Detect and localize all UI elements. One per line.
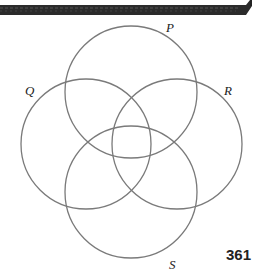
circle-s — [65, 126, 197, 258]
label-q: Q — [25, 83, 34, 99]
label-p: P — [166, 20, 174, 36]
label-r: R — [224, 83, 232, 99]
venn-diagram — [0, 0, 261, 274]
circle-p — [65, 26, 197, 158]
label-s: S — [169, 257, 176, 273]
page-number: 361 — [226, 246, 251, 263]
